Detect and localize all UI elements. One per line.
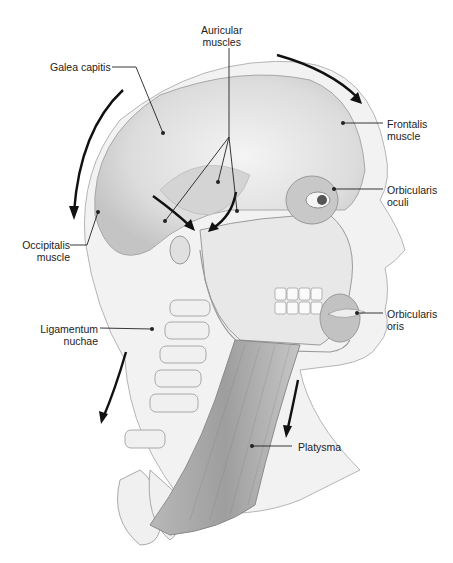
label-line: Ligamentum <box>30 323 98 335</box>
label-line: Orbicularis <box>387 184 437 196</box>
label-line: Platysma <box>298 441 341 453</box>
label-line: Galea capitis <box>50 61 111 73</box>
label-line: muscle <box>14 251 70 263</box>
ear <box>170 236 190 264</box>
label-occipitalis-muscle: Occipitalis muscle <box>14 239 70 263</box>
label-orbicularis-oris: Orbicularis oris <box>387 308 437 332</box>
label-line: muscles <box>201 36 242 48</box>
label-platysma: Platysma <box>298 441 341 453</box>
label-ligamentum-nuchae: Ligamentum nuchae <box>30 323 98 347</box>
anatomy-illustration <box>0 0 453 563</box>
label-line: Occipitalis <box>14 239 70 251</box>
label-orbicularis-oculi: Orbicularis oculi <box>387 184 437 208</box>
arrow-ligamentum <box>103 352 126 418</box>
label-frontalis-muscle: Frontalis muscle <box>387 118 427 142</box>
label-line: oculi <box>387 196 437 208</box>
eye-iris <box>317 195 327 205</box>
label-line: Orbicularis <box>387 308 437 320</box>
label-line: muscle <box>387 130 427 142</box>
label-line: Frontalis <box>387 118 427 130</box>
label-galea-capitis: Galea capitis <box>50 61 111 73</box>
label-line: nuchae <box>30 335 98 347</box>
label-auricular-muscles: Auricular muscles <box>201 24 242 48</box>
orbicularis-oris-ring <box>320 294 360 342</box>
label-line: Auricular <box>201 24 242 36</box>
label-line: oris <box>387 320 437 332</box>
